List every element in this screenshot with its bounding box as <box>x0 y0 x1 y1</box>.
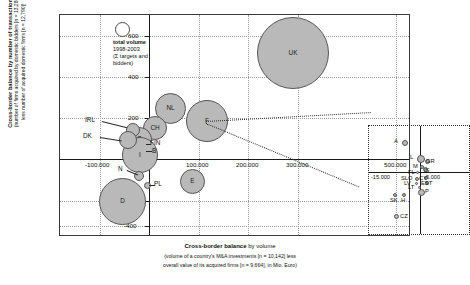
callout-GR: GR <box>426 158 435 164</box>
callout-N: N <box>118 165 123 172</box>
callout-P: P <box>425 188 429 194</box>
callout-LT: LT <box>408 184 414 190</box>
bubble-label-NL: NL <box>166 105 174 111</box>
y-tick-label-400: 400 <box>128 73 138 80</box>
legend-period: 1998-2003 <box>113 46 179 53</box>
y-tickmark--400 <box>145 226 150 227</box>
y-tick-label-200: 200 <box>128 114 138 121</box>
inset-detail-box: -15.000 5.000 A L GR M IS FL SLO CY EST … <box>368 125 470 235</box>
leader-B <box>146 151 152 152</box>
leader-FIN <box>146 144 151 145</box>
bubble-P[interactable] <box>418 189 425 196</box>
leader-IRL <box>102 121 127 128</box>
callout-SK: SK <box>390 197 398 203</box>
inset-x-axis <box>369 172 469 173</box>
callout-L: L <box>410 154 413 160</box>
bubble-E[interactable]: E <box>180 169 205 194</box>
callout-PL: PL <box>154 180 162 187</box>
x-axis-title-main: Cross-border balance by volume <box>110 243 350 251</box>
x-tick-label-200000: 200.000 <box>236 161 258 168</box>
y-tickmark-400 <box>145 77 150 78</box>
bubble-label-UK: UK <box>289 50 298 56</box>
callout-CZ: CZ <box>400 213 408 219</box>
callout-DK: DK <box>83 132 92 139</box>
callout-A: A <box>394 138 398 144</box>
legend-title: total volume <box>113 39 146 45</box>
bubble-LV[interactable] <box>415 182 418 185</box>
callout-B: B <box>152 147 156 154</box>
y-axis-title-sub2: less number of acquired domestic firms [… <box>21 0 27 167</box>
legend-line4: bidders) <box>113 60 179 67</box>
callout-FIN: FIN <box>150 139 160 146</box>
plot-area: 600 400 200 -200 -400 -100.000 100.000 2… <box>59 14 410 236</box>
bubble-D[interactable]: D <box>99 178 146 225</box>
x-tick-label-100000: 100.000 <box>186 161 208 168</box>
callout-H: H <box>401 197 405 203</box>
inset-x-tick-label-left: -15.000 <box>371 174 390 180</box>
legend-line3: (Σ targets and <box>113 53 179 60</box>
callout-IRL: IRL <box>85 116 95 123</box>
bubble-label-I: I <box>139 152 141 158</box>
x-axis-title-sub1: (volume of a country's M&A investments [… <box>110 253 350 260</box>
gridline-y-400 <box>60 77 409 78</box>
x-axis-line <box>60 159 409 160</box>
legend-text: total volume 1998-2003 (Σ targets and bi… <box>113 39 179 67</box>
x-axis-title-sub2: overall value of its acquired firms [n =… <box>110 262 350 269</box>
bubble-L[interactable] <box>417 155 425 163</box>
x-axis-title-rest: by volume <box>247 243 276 249</box>
x-axis-title-bold: Cross-border balance <box>184 243 246 249</box>
gridline-x-200000 <box>248 15 249 235</box>
x-axis-title: Cross-border balance by volume (volume o… <box>110 243 350 268</box>
bubble-CZ[interactable] <box>394 214 399 219</box>
gridline-y--400 <box>60 226 409 227</box>
bubble-label-E: E <box>190 178 194 184</box>
y-axis-title: Cross-border balance by number of transa… <box>7 0 27 167</box>
legend-bubble-icon <box>115 22 130 37</box>
leader-PL <box>149 185 155 186</box>
bubble-size-legend: total volume 1998-2003 (Σ targets and bi… <box>113 22 179 67</box>
callout-IS: IS <box>424 167 429 173</box>
callout-EST: EST <box>421 180 432 186</box>
bubble-label-CH: CH <box>150 125 159 131</box>
bubble-FL[interactable] <box>416 171 419 174</box>
x-tick-label--100000: -100.000 <box>85 161 109 168</box>
bubble-UK[interactable]: UK <box>257 17 329 89</box>
bubble-A[interactable] <box>402 140 408 146</box>
bubble-label-D: D <box>120 198 125 204</box>
inset-connector-bottom <box>206 123 360 187</box>
